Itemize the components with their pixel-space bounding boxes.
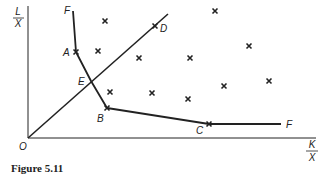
label-d: D	[160, 23, 167, 34]
y-axis-label: L X	[13, 6, 24, 29]
scatter-mark	[213, 9, 218, 14]
scatter-mark	[267, 79, 272, 84]
label-b: B	[97, 113, 104, 124]
label-e: E	[78, 76, 85, 87]
svg-text:L: L	[15, 6, 21, 17]
scatter-mark	[150, 91, 155, 96]
x-axis-label: K X	[306, 139, 318, 163]
isoquant-line	[73, 11, 281, 124]
line-point-markers	[74, 24, 212, 127]
scatter-mark	[222, 84, 227, 89]
scatter-mark	[96, 49, 101, 54]
svg-text:K: K	[309, 139, 317, 150]
svg-text:X: X	[308, 152, 316, 163]
scatter-mark	[188, 56, 193, 61]
svg-text:X: X	[14, 18, 22, 29]
label-a: A	[62, 47, 70, 58]
figure-caption: Figure 5.11	[11, 162, 63, 174]
label-c: C	[196, 125, 204, 136]
scatter-mark	[103, 19, 108, 24]
scatter-mark	[137, 56, 142, 61]
label-f-top: F	[64, 5, 71, 16]
isoquant-diagram: L X K X O F A E B C F D Figure 5.11	[0, 0, 329, 182]
scatter-mark	[247, 44, 252, 49]
scatter-mark	[186, 97, 191, 102]
origin-label: O	[19, 141, 27, 152]
scatter-mark	[108, 90, 113, 95]
label-f-right: F	[286, 119, 293, 130]
